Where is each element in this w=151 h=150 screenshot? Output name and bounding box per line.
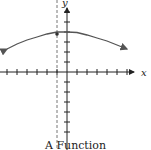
function-graph: x y — [0, 0, 151, 150]
chart-caption: A Function — [0, 139, 151, 150]
marked-point — [55, 32, 59, 36]
x-axis: x — [0, 67, 147, 78]
y-axis: y — [61, 0, 70, 150]
x-axis-label: x — [141, 67, 147, 78]
y-axis-label: y — [61, 0, 68, 8]
